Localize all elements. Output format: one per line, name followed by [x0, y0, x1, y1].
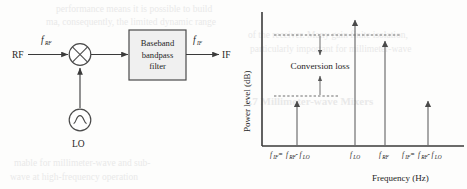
- y-axis-title: Power level (dB): [242, 71, 252, 132]
- block-diagram: RF f RF LO: [12, 30, 230, 149]
- filter-label-line-3: filter: [149, 61, 166, 71]
- rf-input-label: RF: [12, 50, 24, 60]
- frf-signal-label: f RF: [41, 35, 52, 46]
- svg-text:=: =: [411, 151, 415, 159]
- svg-text:IF: IF: [196, 40, 203, 46]
- svg-text:LO: LO: [434, 154, 442, 160]
- x-axis-title: Frequency (Hz): [372, 173, 429, 183]
- x-tick-label-rf: fRF: [379, 151, 390, 160]
- mixer-cross-circle-icon: [69, 44, 91, 66]
- if-output-label: IF: [222, 50, 230, 60]
- oscillator-sine-circle-icon: [69, 109, 91, 131]
- filter-label-line-2: bandpass: [142, 50, 174, 60]
- svg-text:LO: LO: [352, 154, 360, 160]
- figure-svg: RF f RF LO: [0, 0, 467, 189]
- lo-label: LO: [72, 139, 85, 149]
- svg-text:=: =: [279, 151, 283, 159]
- svg-text:-: -: [296, 151, 299, 159]
- conversion-loss-annotation: Conversion loss: [291, 61, 350, 71]
- spectrum-chart: Power level (dB) Conversion loss fIF =: [242, 12, 464, 183]
- fif-signal-label: f IF: [193, 35, 203, 46]
- svg-text:-: -: [428, 151, 431, 159]
- svg-text:LO: LO: [302, 154, 310, 160]
- svg-text:RF: RF: [44, 40, 52, 46]
- svg-text:RF: RF: [381, 154, 389, 160]
- x-tick-label-if-lower: fIF = fRF - fLO: [270, 151, 310, 160]
- x-tick-label-if-upper: fIF = fRF - fLO: [402, 151, 442, 160]
- x-tick-label-lo: fLO: [350, 151, 360, 160]
- filter-label-line-1: Baseband: [141, 38, 175, 48]
- figure-root: performance means it is possible to buil…: [0, 0, 467, 189]
